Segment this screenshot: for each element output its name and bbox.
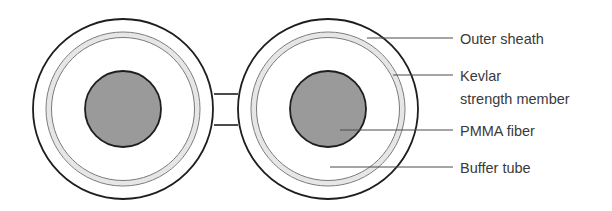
right-cable <box>238 19 418 199</box>
web-bridge <box>214 94 238 125</box>
label-buffer-tube: Buffer tube <box>460 160 531 176</box>
label-kevlar: Kevlar <box>460 68 501 84</box>
left-cable <box>33 19 213 199</box>
label-outer-sheath: Outer sheath <box>460 31 544 47</box>
label-strength-member: strength member <box>460 91 570 107</box>
fiber-cable-diagram: Outer sheath Kevlar strength member PMMA… <box>0 0 612 211</box>
label-pmma-fiber: PMMA fiber <box>460 123 535 139</box>
left-pmma-core <box>85 71 161 147</box>
right-pmma-core <box>290 71 366 147</box>
